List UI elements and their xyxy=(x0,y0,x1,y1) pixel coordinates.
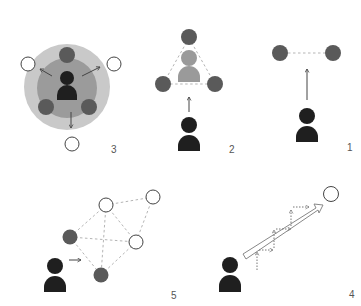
node-white-bottom xyxy=(65,137,79,151)
hollow-arrow-icon xyxy=(243,204,323,259)
node-white-right xyxy=(107,57,121,71)
node-dark-left xyxy=(155,76,171,92)
node-dark-left xyxy=(272,45,288,61)
node-dark-top xyxy=(181,29,197,45)
panel-label: 2 xyxy=(229,144,235,155)
node-dark xyxy=(63,230,78,245)
diagram-canvas: 3 2 1 xyxy=(0,0,361,306)
node-white-left xyxy=(21,57,35,71)
person-icon xyxy=(296,108,318,142)
person-icon-light xyxy=(178,50,200,82)
node-dark-right xyxy=(325,45,341,61)
node-white xyxy=(129,235,143,249)
panel-4: 4 xyxy=(219,187,355,301)
node-white-target xyxy=(324,187,339,202)
node-dark-right xyxy=(207,76,223,92)
node-dark-right xyxy=(81,99,97,115)
node-dark xyxy=(94,268,109,283)
panel-3: 3 xyxy=(21,44,121,155)
node-white xyxy=(99,198,113,212)
node-dark-left xyxy=(38,99,54,115)
panel-label: 4 xyxy=(349,289,355,300)
person-icon xyxy=(44,258,66,292)
dotted-staircase-path xyxy=(257,207,309,270)
panel-5: 5 xyxy=(44,190,177,301)
node-dark-top xyxy=(59,47,75,63)
node-white xyxy=(146,190,160,204)
panel-1: 1 xyxy=(272,45,353,153)
panel-label: 5 xyxy=(171,290,177,301)
panel-2: 2 xyxy=(155,29,235,155)
panel-label: 1 xyxy=(347,142,353,153)
person-icon xyxy=(178,117,200,151)
panel-label: 3 xyxy=(111,144,117,155)
person-icon xyxy=(219,257,241,292)
